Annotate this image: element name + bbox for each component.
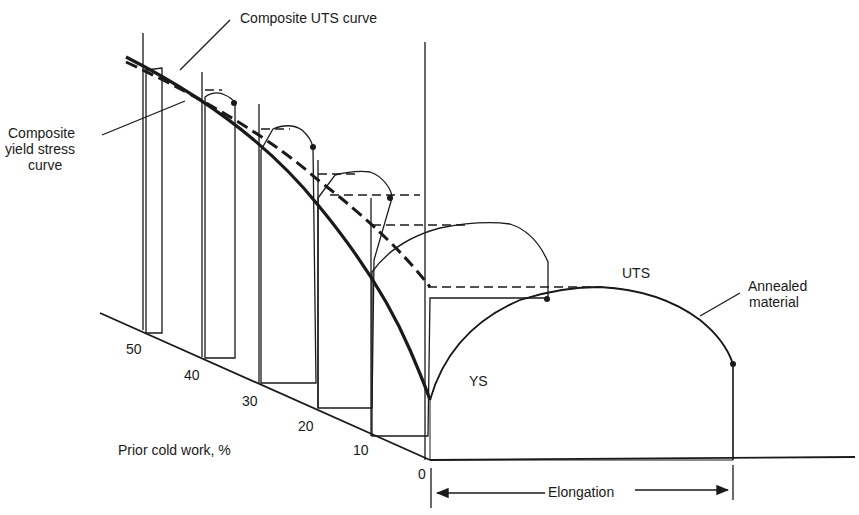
- composite-ys-label-line2: yield stress: [5, 141, 75, 157]
- slice-50-percent: [146, 68, 162, 333]
- slice-30-percent: [261, 126, 316, 383]
- tick-30: 30: [242, 393, 258, 409]
- tick-20: 20: [298, 418, 314, 434]
- tick-40: 40: [184, 367, 200, 383]
- composite-ys-label-line1: Composite: [8, 125, 75, 141]
- tick-10: 10: [353, 442, 369, 458]
- annealed-leader: [700, 293, 740, 316]
- slice-20-percent: [318, 171, 393, 408]
- origin-label: 0: [418, 466, 426, 482]
- elongation-label: Elongation: [548, 484, 614, 500]
- back-plane-lines: [143, 33, 425, 460]
- tick-50: 50: [126, 341, 142, 357]
- uts-label: UTS: [622, 265, 650, 281]
- slice-40-percent: [205, 90, 237, 358]
- annealed-label-line1: Annealed: [748, 278, 807, 294]
- composite-uts-curve: [126, 62, 430, 287]
- cold-work-axis-label: Prior cold work, %: [118, 442, 231, 458]
- uts-curve-leader: [180, 20, 230, 70]
- composite-ys-label-line3: curve: [28, 157, 62, 173]
- slice-10-percent: [372, 223, 550, 436]
- composite-uts-label: Composite UTS curve: [240, 10, 377, 26]
- composite-yield-stress-curve: [126, 57, 430, 400]
- annealed-label-line2: material: [749, 294, 799, 310]
- stress-strain-3d-diagram: Composite UTS curve Composite yield stre…: [0, 0, 859, 515]
- ys-label: YS: [469, 373, 488, 389]
- cold-work-axis: [100, 313, 430, 460]
